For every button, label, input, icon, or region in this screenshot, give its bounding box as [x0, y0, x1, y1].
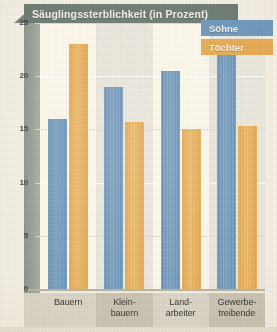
bar-texture	[104, 87, 123, 289]
legend-label-daughters: Töchter	[201, 42, 244, 53]
y-axis-tickmark	[35, 183, 40, 184]
legend-item-daughters[interactable]: Töchter	[201, 39, 273, 55]
bar-töchter-landarbeiter[interactable]	[182, 129, 201, 289]
y-axis-tickmark	[35, 129, 40, 130]
x-axis-label-line: Bauern	[54, 297, 82, 308]
y-axis-tick-20: 20	[8, 71, 28, 80]
plot-area	[40, 23, 265, 289]
legend-item-sons[interactable]: Söhne	[201, 20, 273, 36]
x-axis-label-kleinbauern: Klein-bauern	[96, 293, 152, 327]
page-bottom-edge	[0, 327, 277, 332]
x-axis-label-line: bauern	[111, 308, 138, 319]
bar-söhne-bauern[interactable]	[48, 119, 67, 289]
y-axis-tickmark	[35, 76, 40, 77]
y-axis-tick-10: 10	[8, 178, 28, 187]
y-axis-tick-5: 5	[8, 231, 28, 240]
bar-söhne-gewerbetreibende[interactable]	[217, 55, 236, 289]
chart-page: Säuglingssterblichkeit (in Prozent) 0510…	[0, 0, 277, 332]
bar-texture	[125, 122, 144, 289]
y-axis-tick-0: 0	[8, 284, 28, 293]
bar-texture	[182, 129, 201, 289]
y-axis-tick-25: 25	[8, 18, 28, 27]
bar-texture	[217, 55, 236, 289]
x-axis-label-bauern: Bauern	[40, 293, 96, 327]
y-axis-tickmark	[35, 236, 40, 237]
x-axis-labels: BauernKlein-bauernLand-arbeiterGewerbe-t…	[24, 293, 265, 327]
legend: Söhne Töchter	[201, 20, 273, 58]
x-axis-label-line: arbeiter	[166, 308, 196, 319]
bar-töchter-kleinbauern[interactable]	[125, 122, 144, 289]
x-axis-label-line: Land-	[169, 297, 192, 308]
x-axis-label-gewerbetreibende: Gewerbe-treibende	[209, 293, 265, 327]
axis-baseline	[24, 289, 265, 291]
x-axis-label-line: treibende	[219, 308, 256, 319]
chart-title: Säuglingssterblichkeit (in Prozent)	[24, 8, 208, 20]
y-axis-tickmark	[35, 23, 40, 24]
y-axis-band	[24, 23, 40, 293]
x-axis-label-line: Gewerbe-	[218, 297, 257, 308]
bar-töchter-bauern[interactable]	[69, 44, 88, 289]
bar-texture	[48, 119, 67, 289]
y-axis-tick-15: 15	[8, 124, 28, 133]
x-axis-label-landarbeiter: Land-arbeiter	[153, 293, 209, 327]
bar-texture	[238, 126, 257, 289]
bar-söhne-kleinbauern[interactable]	[104, 87, 123, 289]
x-axis-label-line: Klein-	[113, 297, 135, 308]
bar-texture	[69, 44, 88, 289]
bar-söhne-landarbeiter[interactable]	[161, 71, 180, 289]
bar-töchter-gewerbetreibende[interactable]	[238, 126, 257, 289]
bar-texture	[161, 71, 180, 289]
legend-label-sons: Söhne	[201, 23, 238, 34]
